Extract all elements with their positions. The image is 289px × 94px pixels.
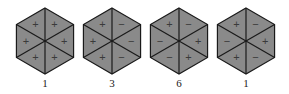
hexagon-1: ++++++ — [16, 8, 73, 74]
minus-sign: − — [118, 18, 124, 30]
minus-sign: − — [118, 51, 124, 63]
hexagon-3: +−++−− — [150, 8, 207, 74]
minus-sign: − — [252, 51, 258, 63]
hexagon-2: +−−−++ — [83, 8, 140, 74]
plus-sign: + — [23, 35, 29, 47]
plus-sign: + — [185, 51, 191, 63]
hexagon-4: +−+−+− — [217, 8, 274, 74]
plus-sign: + — [166, 18, 172, 30]
plus-sign: + — [61, 35, 67, 47]
plus-sign: + — [90, 35, 96, 47]
plus-sign: + — [99, 51, 105, 63]
plus-sign: + — [32, 51, 38, 63]
plus-sign: + — [262, 35, 268, 47]
hexagon-label-4: 1 — [236, 77, 256, 89]
plus-sign: + — [51, 51, 57, 63]
plus-sign: + — [233, 18, 239, 30]
minus-sign: − — [128, 35, 134, 47]
minus-sign: − — [185, 18, 191, 30]
minus-sign: − — [166, 51, 172, 63]
hexagon-label-2: 3 — [102, 77, 122, 89]
plus-sign: + — [195, 35, 201, 47]
plus-sign: + — [32, 18, 38, 30]
hexagon-label-3: 6 — [169, 77, 189, 89]
minus-sign: − — [157, 35, 163, 47]
minus-sign: − — [252, 18, 258, 30]
minus-sign: − — [224, 35, 230, 47]
plus-sign: + — [99, 18, 105, 30]
hexagon-label-1: 1 — [35, 77, 55, 89]
plus-sign: + — [51, 18, 57, 30]
plus-sign: + — [233, 51, 239, 63]
